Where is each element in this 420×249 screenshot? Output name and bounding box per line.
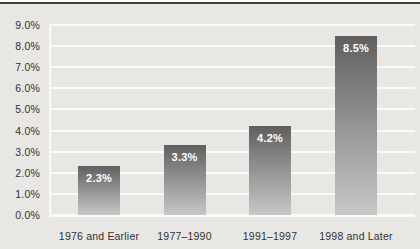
- y-tick-label: 6.0%: [0, 82, 40, 94]
- y-tick-label: 3.0%: [0, 146, 40, 158]
- bar: 2.3%: [78, 166, 120, 215]
- bar-value-label: 8.5%: [335, 36, 377, 54]
- bar-chart: 0.0%1.0%2.0%3.0%4.0%5.0%6.0%7.0%8.0%9.0%…: [0, 4, 420, 249]
- plot-area: 0.0%1.0%2.0%3.0%4.0%5.0%6.0%7.0%8.0%9.0%…: [0, 4, 420, 249]
- bar: 4.2%: [249, 126, 291, 215]
- y-tick-label: 7.0%: [0, 61, 40, 73]
- x-category-label: 1977–1990: [157, 230, 211, 242]
- bar: 3.3%: [164, 145, 206, 215]
- y-tick-label: 5.0%: [0, 103, 40, 115]
- y-tick-label: 9.0%: [0, 19, 40, 31]
- bar-value-label: 3.3%: [164, 145, 206, 163]
- gridline: [49, 24, 415, 26]
- y-tick-label: 8.0%: [0, 40, 40, 52]
- y-tick-label: 2.0%: [0, 167, 40, 179]
- x-category-label: 1991–1997: [243, 230, 297, 242]
- bar-value-label: 4.2%: [249, 126, 291, 144]
- bar: 8.5%: [335, 36, 377, 215]
- bar-value-label: 2.3%: [78, 166, 120, 184]
- x-category-label: 1998 and Later: [319, 230, 392, 242]
- y-tick-label: 0.0%: [0, 209, 40, 221]
- chart-screenshot: 0.0%1.0%2.0%3.0%4.0%5.0%6.0%7.0%8.0%9.0%…: [0, 0, 420, 249]
- y-axis-line: [49, 25, 51, 215]
- y-tick-label: 1.0%: [0, 188, 40, 200]
- y-tick-label: 4.0%: [0, 125, 40, 137]
- x-category-label: 1976 and Earlier: [59, 230, 139, 242]
